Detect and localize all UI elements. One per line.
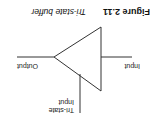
- figure-number: Figure 2.11: [103, 7, 150, 17]
- tri-state-buffer-diagram: Figure 2.11 Tri-state buffer Input Outpu…: [0, 0, 152, 120]
- input-label: Input: [124, 62, 140, 70]
- tri-state-label-line2: Input: [58, 98, 74, 106]
- tri-state-label-line1: Tri-state: [48, 107, 74, 114]
- figure-title: Tri-state buffer: [30, 7, 86, 17]
- output-label: Output: [17, 62, 38, 70]
- figure-rotated: Figure 2.11 Tri-state buffer Input Outpu…: [0, 0, 152, 120]
- buffer-triangle-icon: [54, 27, 101, 91]
